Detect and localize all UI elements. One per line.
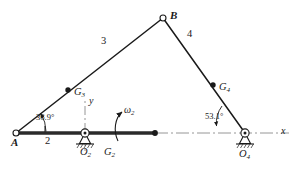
cg-marker-G3 — [65, 87, 70, 92]
grounded-pivot-O4 — [236, 129, 254, 148]
label-angle-theta2: 36.9° — [36, 113, 54, 122]
label-cg-G3: G3 — [74, 87, 85, 99]
label-cg-G4: G4 — [219, 82, 230, 94]
link-2-end-node — [152, 130, 158, 136]
label-y-axis: y — [89, 96, 93, 106]
label-omega2: ω2 — [124, 105, 134, 117]
label-cg-G2: G2 — [104, 147, 115, 159]
label-link-3: 3 — [101, 36, 106, 47]
link-4-member — [163, 18, 245, 133]
joint-B — [160, 15, 166, 21]
label-joint-B: B — [170, 10, 177, 21]
label-angle-theta4: 53.1° — [205, 112, 223, 121]
label-link-4: 4 — [187, 29, 192, 40]
label-joint-A: A — [11, 137, 18, 148]
label-x-axis: x — [281, 126, 285, 136]
cg-marker-G4 — [210, 82, 215, 87]
label-joint-O2: O2 — [80, 147, 91, 159]
label-joint-O4: O4 — [239, 149, 250, 161]
label-link-2: 2 — [45, 136, 50, 147]
omega2-arrow — [115, 112, 122, 141]
